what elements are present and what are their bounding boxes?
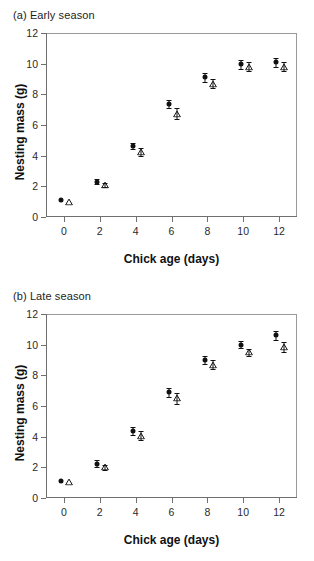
error-bar-cap <box>238 60 243 61</box>
error-bar-cap <box>166 397 171 398</box>
filled-circle-icon <box>59 479 64 484</box>
x-tick <box>64 217 65 222</box>
x-tick-label: 4 <box>133 225 139 237</box>
x-axis-title-b: Chick age (days) <box>46 533 297 547</box>
y-tick <box>41 437 46 438</box>
panel-early-season: (a) Early season Nesting mass (g) Chick … <box>0 0 314 280</box>
error-bar-cap <box>282 352 287 353</box>
y-tick <box>41 314 46 315</box>
x-tick-label: 4 <box>133 506 139 518</box>
error-bar-cap <box>202 82 207 83</box>
x-tick <box>100 498 101 503</box>
error-bar-cap <box>282 71 287 72</box>
open-triangle-icon <box>101 181 109 188</box>
y-tick-label: 0 <box>32 492 38 504</box>
x-tick <box>100 217 101 222</box>
error-bar-cap <box>274 67 279 68</box>
x-tick-label: 0 <box>61 506 67 518</box>
error-bar-cap <box>139 440 144 441</box>
filled-circle-icon <box>202 75 207 80</box>
plot-area-b: 024681012024681012 <box>46 314 297 498</box>
error-bar-cap <box>246 71 251 72</box>
x-tick <box>207 498 208 503</box>
y-tick-label: 6 <box>32 119 38 131</box>
filled-circle-icon <box>166 390 171 395</box>
filled-circle-icon <box>130 143 135 148</box>
x-tick-label: 8 <box>204 506 210 518</box>
error-bar-cap <box>174 393 179 394</box>
filled-circle-icon <box>59 198 64 203</box>
y-tick-label: 2 <box>32 461 38 473</box>
open-triangle-icon <box>65 199 73 206</box>
frame-right <box>296 33 297 217</box>
open-triangle-icon <box>209 80 217 87</box>
open-triangle-icon <box>245 63 253 70</box>
filled-circle-icon <box>130 429 135 434</box>
y-tick <box>41 33 46 34</box>
plot-area-a: 024681012024681012 <box>46 33 297 217</box>
panel-late-season: (b) Late season Nesting mass (g) Chick a… <box>0 281 314 561</box>
x-tick-label: 8 <box>204 225 210 237</box>
error-bar-cap <box>210 88 215 89</box>
error-bar-cap <box>274 58 279 59</box>
x-tick-label: 6 <box>169 506 175 518</box>
x-tick <box>172 498 173 503</box>
x-tick-label: 2 <box>97 506 103 518</box>
filled-circle-icon <box>202 358 207 363</box>
y-tick-label: 6 <box>32 400 38 412</box>
error-bar-cap <box>202 364 207 365</box>
x-tick <box>64 498 65 503</box>
x-tick <box>136 217 137 222</box>
x-tick <box>279 217 280 222</box>
frame-top <box>46 33 297 34</box>
x-tick-label: 0 <box>61 225 67 237</box>
error-bar-cap <box>95 467 100 468</box>
x-tick <box>172 217 173 222</box>
x-tick <box>279 498 280 503</box>
open-triangle-icon <box>209 361 217 368</box>
panel-title-b: (b) Late season <box>13 290 91 302</box>
error-bar-cap <box>174 108 179 109</box>
filled-circle-icon <box>238 342 243 347</box>
error-bar-cap <box>139 156 144 157</box>
y-tick-label: 10 <box>26 58 38 70</box>
error-bar-cap <box>166 108 171 109</box>
y-tick-label: 8 <box>32 88 38 100</box>
filled-circle-icon <box>95 179 100 184</box>
y-tick <box>41 375 46 376</box>
open-triangle-icon <box>101 464 109 471</box>
y-tick-label: 12 <box>26 27 38 39</box>
error-bar-cap <box>130 435 135 436</box>
y-tick <box>41 498 46 499</box>
error-bar-cap <box>166 388 171 389</box>
open-triangle-icon <box>173 395 181 402</box>
y-tick <box>41 94 46 95</box>
x-axis-title-a: Chick age (days) <box>46 252 297 266</box>
x-tick-label: 10 <box>237 506 249 518</box>
y-axis-title-a: Nesting mass (g) <box>13 57 27 207</box>
x-tick-label: 12 <box>273 506 285 518</box>
filled-circle-icon <box>274 333 279 338</box>
open-triangle-icon <box>137 148 145 155</box>
filled-circle-icon <box>166 102 171 107</box>
frame-left <box>46 33 47 217</box>
error-bar-cap <box>274 340 279 341</box>
x-tick-label: 2 <box>97 225 103 237</box>
y-tick-label: 2 <box>32 180 38 192</box>
frame-right <box>296 314 297 498</box>
y-tick-label: 10 <box>26 339 38 351</box>
open-triangle-icon <box>173 110 181 117</box>
y-tick <box>41 125 46 126</box>
y-tick <box>41 467 46 468</box>
y-tick <box>41 217 46 218</box>
panel-title-a: (a) Early season <box>13 9 95 21</box>
filled-circle-icon <box>274 60 279 65</box>
y-tick <box>41 186 46 187</box>
open-triangle-icon <box>280 343 288 350</box>
y-tick <box>41 345 46 346</box>
error-bar-cap <box>210 369 215 370</box>
filled-circle-icon <box>238 62 243 67</box>
frame-left <box>46 314 47 498</box>
open-triangle-icon <box>137 432 145 439</box>
x-tick <box>243 217 244 222</box>
